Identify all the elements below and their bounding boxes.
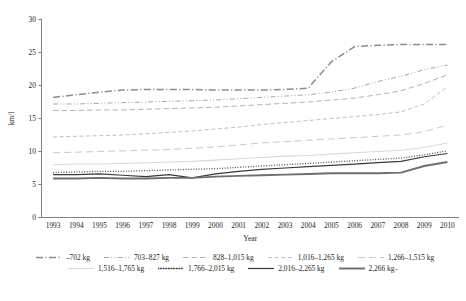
legend-swatch-icon — [268, 254, 294, 261]
chart-axis-labels: 0510152025301993199419951996199719981999… — [7, 15, 455, 242]
series-line-4 — [53, 125, 447, 153]
x-tick-label: 1997 — [138, 221, 153, 230]
chart-series-group — [53, 45, 447, 179]
legend-swatch-icon — [104, 254, 130, 261]
legend-item-label: 703–827 kg — [134, 252, 169, 263]
series-line-3 — [53, 87, 447, 137]
line-chart-plot: 0510152025301993199419951996199719981999… — [0, 0, 466, 252]
legend-swatch-icon — [339, 265, 365, 272]
legend-item-label: 1,016–1,265 kg — [298, 252, 344, 263]
x-axis-title: Year — [243, 234, 257, 243]
series-line-1 — [53, 65, 447, 104]
legend-item-label: 1,266–1,515 kg — [388, 252, 434, 263]
legend-item[interactable]: 1,766–2,015 kg — [158, 263, 234, 274]
x-tick-label: 2000 — [208, 221, 223, 230]
x-tick-label: 2005 — [324, 221, 339, 230]
series-line-7 — [53, 153, 447, 177]
legend-swatch-icon — [68, 265, 94, 272]
legend-item-label: 828–1,015 kg — [213, 252, 254, 263]
chart-container: 0510152025301993199419951996199719981999… — [0, 0, 466, 301]
legend-item[interactable]: 2,266 kg– — [339, 263, 399, 274]
legend-item[interactable]: 1,516–1,765 kg — [68, 263, 144, 274]
x-tick-label: 2001 — [231, 221, 246, 230]
y-tick-label: 5 — [32, 180, 36, 189]
y-axis-title: km/l — [7, 112, 16, 126]
x-tick-label: 1999 — [185, 221, 200, 230]
legend-row-2: 1,516–1,765 kg1,766–2,015 kg2,016–2,265 … — [0, 263, 466, 274]
y-tick-label: 20 — [29, 81, 37, 90]
legend-item[interactable]: 2,016–2,265 kg — [248, 263, 324, 274]
legend-item-label: –702 kg — [66, 252, 90, 263]
y-tick-label: 30 — [29, 15, 37, 24]
x-tick-label: 2002 — [254, 221, 269, 230]
x-tick-label: 1995 — [92, 221, 107, 230]
y-tick-label: 10 — [29, 147, 37, 156]
legend-item[interactable]: 703–827 kg — [104, 252, 169, 263]
series-line-5 — [53, 143, 447, 165]
legend-item[interactable]: 828–1,015 kg — [183, 252, 254, 263]
legend-item[interactable]: –702 kg — [36, 252, 90, 263]
x-tick-label: 2007 — [370, 221, 385, 230]
legend-item-label: 1,516–1,765 kg — [98, 263, 144, 274]
legend-swatch-icon — [358, 254, 384, 261]
legend-item-label: 2,266 kg– — [369, 263, 399, 274]
x-tick-label: 2006 — [347, 221, 362, 230]
series-line-0 — [53, 45, 447, 98]
x-tick-label: 2008 — [394, 221, 409, 230]
legend-swatch-icon — [158, 265, 184, 272]
series-line-2 — [53, 75, 447, 111]
legend-swatch-icon — [183, 254, 209, 261]
y-tick-label: 25 — [29, 48, 37, 57]
legend-item-label: 1,766–2,015 kg — [188, 263, 234, 274]
legend-swatch-icon — [248, 265, 274, 272]
chart-axes — [38, 19, 459, 218]
y-tick-label: 15 — [29, 114, 37, 123]
chart-legend: –702 kg703–827 kg828–1,015 kg1,016–1,265… — [0, 252, 466, 274]
x-tick-label: 1993 — [46, 221, 61, 230]
x-tick-label: 2010 — [440, 221, 455, 230]
x-tick-label: 2009 — [417, 221, 432, 230]
x-tick-label: 1994 — [69, 221, 84, 230]
x-tick-label: 2003 — [278, 221, 293, 230]
x-tick-label: 2004 — [301, 221, 316, 230]
legend-item-label: 2,016–2,265 kg — [278, 263, 324, 274]
legend-item[interactable]: 1,016–1,265 kg — [268, 252, 344, 263]
x-tick-label: 1996 — [115, 221, 130, 230]
legend-swatch-icon — [36, 254, 62, 261]
legend-item[interactable]: 1,266–1,515 kg — [358, 252, 434, 263]
legend-row-1: –702 kg703–827 kg828–1,015 kg1,016–1,265… — [0, 252, 466, 263]
x-tick-label: 1998 — [162, 221, 177, 230]
y-tick-label: 0 — [32, 213, 36, 222]
